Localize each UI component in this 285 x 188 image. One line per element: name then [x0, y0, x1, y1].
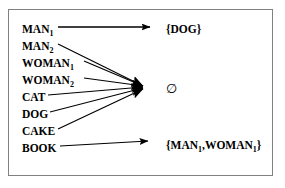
source-label-man1: MAN1: [22, 24, 53, 36]
source-label-dog: DOG: [22, 109, 48, 121]
arrow-cake-to-empty-set: [58, 89, 143, 129]
target-label-set-dog: {DOG}: [166, 24, 201, 36]
source-label-cake: CAKE: [22, 126, 55, 138]
target-label-empty-set: ∅: [166, 82, 177, 95]
source-label-cat: CAT: [22, 92, 45, 104]
arrow-cat-to-empty-set: [48, 87, 143, 95]
diagram-page: MAN1 MAN2 WOMAN1 WOMAN2 CAT DOG CAKE BOO…: [0, 0, 285, 188]
arrow-book-to-set-man-woman: [60, 141, 148, 146]
source-label-woman1: WOMAN1: [22, 58, 74, 70]
source-label-woman2: WOMAN2: [22, 75, 74, 87]
arrow-dog-to-empty-set: [50, 88, 143, 112]
source-label-man2: MAN2: [22, 41, 53, 53]
source-label-book: BOOK: [22, 143, 57, 155]
target-label-set-man-woman: {MAN1,WOMAN1}: [166, 140, 261, 152]
